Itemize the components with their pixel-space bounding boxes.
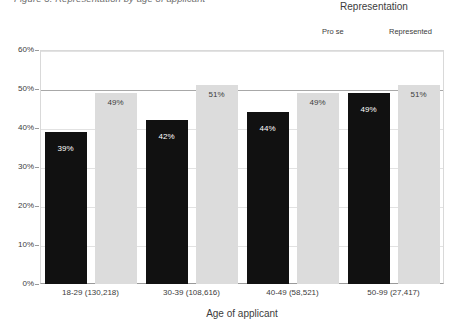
bar-represented[interactable]: 49%: [297, 93, 339, 284]
y-axis-tick-label: 0%: [0, 279, 34, 288]
y-axis-tick: [35, 206, 39, 207]
bar-group: 44%49%: [242, 50, 343, 284]
y-axis-tick: [35, 128, 39, 129]
bar-value-label: 42%: [146, 132, 188, 141]
bar-represented[interactable]: 49%: [95, 93, 137, 284]
legend-item-represented[interactable]: Represented: [366, 17, 432, 37]
y-axis-tick-label: 60%: [0, 45, 34, 54]
bar-pro-se[interactable]: 39%: [45, 132, 87, 284]
y-axis-tick: [35, 50, 39, 51]
y-axis-tick: [35, 167, 39, 168]
bar-represented[interactable]: 51%: [398, 85, 440, 284]
legend-items: Pro se Represented: [296, 17, 452, 37]
bar-group: 39%49%: [40, 50, 141, 284]
y-axis-tick-label: 40%: [0, 123, 34, 132]
legend-item-pro-se[interactable]: Pro se: [299, 17, 344, 37]
y-axis-tick-label: 10%: [0, 240, 34, 249]
chart-legend: Representation Pro se Represented: [296, 1, 452, 39]
x-axis-tick-label: 30-39 (108,616): [141, 288, 242, 297]
bar-represented[interactable]: 51%: [196, 85, 238, 284]
legend-label-represented: Represented: [389, 27, 432, 37]
bar-pro-se[interactable]: 49%: [348, 93, 390, 284]
x-axis-tick-label: 18-29 (130,218): [40, 288, 141, 297]
x-axis-tick-label: 40-49 (58,521): [242, 288, 343, 297]
y-axis-tick-label: 30%: [0, 162, 34, 171]
bar-group: 42%51%: [141, 50, 242, 284]
bar-value-label: 51%: [196, 90, 238, 99]
legend-label-pro-se: Pro se: [322, 27, 344, 37]
legend-title: Representation: [296, 1, 452, 12]
bar-groups: 39%49%42%51%44%49%49%51%: [40, 50, 444, 284]
bar-value-label: 44%: [247, 124, 289, 133]
chart-title: Figure 3. Representation by age of appli…: [14, 0, 314, 5]
bar-pro-se[interactable]: 42%: [146, 120, 188, 284]
bar-value-label: 51%: [398, 90, 440, 99]
bar-value-label: 49%: [297, 98, 339, 107]
bar-pro-se[interactable]: 44%: [247, 112, 289, 284]
y-axis-tick-label: 20%: [0, 201, 34, 210]
y-axis-tick: [35, 245, 39, 246]
bar-chart: Figure 3. Representation by age of appli…: [0, 0, 452, 327]
y-axis-tick: [35, 89, 39, 90]
bar-value-label: 49%: [348, 105, 390, 114]
x-axis-labels: 18-29 (130,218)30-39 (108,616)40-49 (58,…: [40, 288, 444, 302]
bar-value-label: 39%: [45, 144, 87, 153]
x-axis-tick-label: 50-99 (27,417): [343, 288, 444, 297]
bar-value-label: 49%: [95, 98, 137, 107]
legend-swatch-represented: [366, 19, 385, 36]
bar-group: 49%51%: [343, 50, 444, 284]
legend-swatch-pro-se: [299, 19, 318, 36]
x-axis-title: Age of applicant: [40, 308, 444, 319]
y-axis-tick-label: 50%: [0, 84, 34, 93]
y-axis-tick: [35, 284, 39, 285]
